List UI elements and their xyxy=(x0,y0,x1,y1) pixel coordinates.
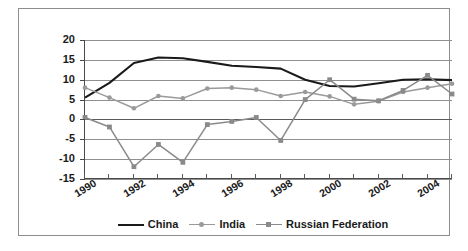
y-axis-tick-mark xyxy=(80,139,85,140)
data-point-marker xyxy=(425,73,430,78)
series-lines xyxy=(85,40,452,179)
legend-label: China xyxy=(148,218,179,230)
legend-entry: India xyxy=(189,218,245,230)
x-axis-tick-mark xyxy=(304,174,305,179)
series-line xyxy=(85,84,452,109)
data-point-marker xyxy=(205,122,210,127)
series-line xyxy=(85,57,452,97)
data-point-marker xyxy=(450,92,455,97)
x-axis-tick-label: 1992 xyxy=(121,177,147,200)
y-axis-tick-label: -15 xyxy=(39,173,75,184)
legend-marker xyxy=(199,222,204,227)
data-point-marker xyxy=(254,115,259,120)
x-axis-tick-label: 1998 xyxy=(268,177,294,200)
y-axis-tick-mark xyxy=(80,80,85,81)
data-point-marker xyxy=(327,94,332,99)
data-point-marker xyxy=(132,164,137,169)
y-axis-tick-mark xyxy=(80,40,85,41)
x-axis-tick-mark xyxy=(378,174,379,179)
data-point-marker xyxy=(181,96,186,101)
x-axis-tick-label: 2004 xyxy=(415,177,441,200)
data-point-marker xyxy=(107,125,112,130)
x-axis-tick-mark xyxy=(353,174,354,179)
data-point-marker xyxy=(156,142,161,147)
x-axis-tick-mark xyxy=(108,174,109,179)
data-point-marker xyxy=(229,119,234,124)
y-axis-tick-label: -10 xyxy=(39,153,75,164)
x-axis-tick-mark xyxy=(329,174,330,179)
legend-label: Russian Federation xyxy=(286,218,388,230)
x-axis-tick-mark xyxy=(280,174,281,179)
x-axis-tick-label: 1994 xyxy=(170,177,196,200)
legend-label: India xyxy=(219,218,245,230)
chart-legend: ChinaIndiaRussian Federation xyxy=(19,218,468,230)
y-axis-tick-label: 0 xyxy=(39,113,75,124)
y-axis-tick-label: 10 xyxy=(39,74,75,85)
data-point-marker xyxy=(132,106,137,111)
x-axis-tick-mark xyxy=(402,174,403,179)
x-axis-tick-mark xyxy=(133,174,134,179)
data-point-marker xyxy=(352,97,357,102)
data-point-marker xyxy=(303,90,308,95)
data-point-marker xyxy=(230,85,235,90)
data-point-marker xyxy=(107,95,112,100)
x-axis-tick-mark xyxy=(255,174,256,179)
data-point-marker xyxy=(180,160,185,165)
data-point-marker xyxy=(83,85,88,90)
data-point-marker xyxy=(205,86,210,91)
y-axis-tick-label: 5 xyxy=(39,94,75,105)
chart-frame: 20151050-5-10-15 19901992199419961998200… xyxy=(18,8,450,236)
legend-line xyxy=(118,224,144,226)
x-axis-tick-mark xyxy=(206,174,207,179)
data-point-marker xyxy=(254,87,259,92)
data-point-marker xyxy=(278,94,283,99)
data-point-marker xyxy=(156,94,161,99)
data-point-marker xyxy=(278,138,283,143)
legend-swatch-icon xyxy=(189,220,215,229)
y-axis-tick-mark xyxy=(80,100,85,101)
y-axis-tick-mark xyxy=(80,60,85,61)
data-point-marker xyxy=(352,102,357,107)
x-axis-tick-mark xyxy=(451,174,452,179)
legend-swatch-icon xyxy=(256,220,282,229)
data-point-marker xyxy=(327,77,332,82)
y-axis-tick-label: 20 xyxy=(39,34,75,45)
legend-swatch-icon xyxy=(118,220,144,229)
y-axis-tick-label: -5 xyxy=(39,133,75,144)
data-point-marker xyxy=(425,85,430,90)
x-axis-tick-mark xyxy=(182,174,183,179)
legend-entry: China xyxy=(118,218,179,230)
x-axis-tick-mark xyxy=(231,174,232,179)
data-point-marker xyxy=(401,88,406,93)
x-axis-tick-label: 1990 xyxy=(72,177,98,200)
data-point-marker xyxy=(303,97,308,102)
legend-marker xyxy=(266,222,271,227)
data-point-marker xyxy=(376,98,381,103)
plot-area xyxy=(84,40,451,179)
x-axis-tick-label: 2000 xyxy=(317,177,343,200)
x-axis-tick-label: 1996 xyxy=(219,177,245,200)
chart-container: 20151050-5-10-15 19901992199419961998200… xyxy=(0,0,468,251)
x-axis-tick-mark xyxy=(427,174,428,179)
x-axis-tick-label: 2002 xyxy=(366,177,392,200)
series-line xyxy=(85,75,452,166)
y-axis-tick-mark xyxy=(80,159,85,160)
x-axis-tick-mark xyxy=(84,174,85,179)
data-point-marker xyxy=(450,81,455,86)
y-axis-tick-label: 15 xyxy=(39,54,75,65)
x-axis-tick-mark xyxy=(157,174,158,179)
legend-entry: Russian Federation xyxy=(256,218,388,230)
y-axis-tick-mark xyxy=(80,119,85,120)
